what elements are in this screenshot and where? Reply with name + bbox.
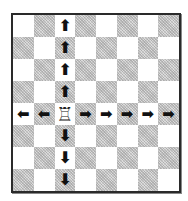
arrow-right-icon: ➡ [79,107,92,122]
square-h8 [158,15,179,37]
square-b2 [34,147,55,169]
square-a1 [13,169,34,191]
square-f3 [117,125,138,147]
square-e8 [96,15,117,37]
square-e7 [96,37,117,59]
square-a2 [13,147,34,169]
square-f2 [117,147,138,169]
square-a7 [13,37,34,59]
arrow-up-icon: ⬆ [58,84,71,100]
square-f5 [117,81,138,103]
square-d6 [75,59,96,81]
square-g3 [138,125,159,147]
square-e4: ➡ [96,103,117,125]
arrow-left-icon: ⬅ [38,107,51,122]
arrow-right-icon: ➡ [121,107,134,122]
square-c5: ⬆ [55,81,76,103]
square-g5 [138,81,159,103]
arrow-right-icon: ➡ [142,107,155,122]
square-h2 [158,147,179,169]
square-c1: ⬇ [55,169,76,191]
arrow-down-icon: ⬇ [58,150,71,166]
square-g8 [138,15,159,37]
square-f4: ➡ [117,103,138,125]
square-h7 [158,37,179,59]
arrow-left-icon: ⬅ [17,107,30,122]
square-h1 [158,169,179,191]
arrow-up-icon: ⬆ [58,62,71,78]
arrow-right-icon: ➡ [100,107,113,122]
arrow-right-icon: ➡ [162,107,175,122]
square-h4: ➡ [158,103,179,125]
square-b4: ⬅ [34,103,55,125]
square-e6 [96,59,117,81]
square-g7 [138,37,159,59]
square-f1 [117,169,138,191]
square-e3 [96,125,117,147]
square-a8 [13,15,34,37]
square-c6: ⬆ [55,59,76,81]
square-a3 [13,125,34,147]
square-b6 [34,59,55,81]
square-h6 [158,59,179,81]
square-c7: ⬆ [55,37,76,59]
square-g1 [138,169,159,191]
square-d5 [75,81,96,103]
square-f8 [117,15,138,37]
square-e5 [96,81,117,103]
arrow-up-icon: ⬆ [58,40,71,56]
square-d1 [75,169,96,191]
square-e2 [96,147,117,169]
square-g4: ➡ [138,103,159,125]
square-e1 [96,169,117,191]
chess-board: ⬆⬆⬆⬆⬅⬅♖➡➡➡➡➡⬇⬇⬇ [11,13,181,193]
square-c3: ⬇ [55,125,76,147]
square-c2: ⬇ [55,147,76,169]
square-b3 [34,125,55,147]
square-g2 [138,147,159,169]
arrow-down-icon: ⬇ [58,172,71,188]
square-b5 [34,81,55,103]
square-d7 [75,37,96,59]
square-b7 [34,37,55,59]
square-g6 [138,59,159,81]
square-f6 [117,59,138,81]
square-d2 [75,147,96,169]
square-a5 [13,81,34,103]
square-a6 [13,59,34,81]
square-b1 [34,169,55,191]
square-d4: ➡ [75,103,96,125]
square-d3 [75,125,96,147]
square-a4: ⬅ [13,103,34,125]
arrow-down-icon: ⬇ [58,128,71,144]
arrow-up-icon: ⬆ [58,18,71,34]
square-b8 [34,15,55,37]
square-d8 [75,15,96,37]
square-h5 [158,81,179,103]
square-h3 [158,125,179,147]
square-c4: ♖ [55,103,76,125]
square-c8: ⬆ [55,15,76,37]
rook-icon: ♖ [56,105,73,124]
square-f7 [117,37,138,59]
